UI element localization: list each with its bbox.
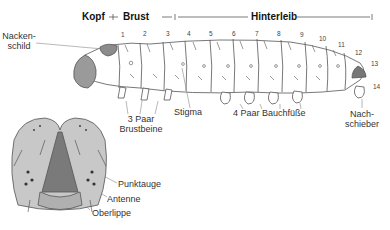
segment-number: 2 [143,30,147,37]
segment-number: 4 [187,30,191,37]
segment-number: 7 [255,30,259,37]
segment-number: 11 [338,41,345,48]
label-labrum: Oberlippe [92,208,131,218]
segment-number: 5 [209,30,213,37]
segment-number: 1 [121,31,125,38]
label-thoracic-legs: 3 Paar Brustbeine [114,114,168,134]
label-head: Kopf [82,11,105,22]
segment-number: 3 [166,30,170,37]
segment-number: 14 [373,83,380,90]
label-neck-shield: Nacken- schild [1,31,37,51]
label-prolegs: 4 Paar Bauchfüße [233,108,306,118]
segment-number: 9 [300,31,304,38]
label-spiracle: Stigma [174,107,202,117]
label-antenna: Antenne [107,194,141,204]
segment-number: 10 [319,35,326,42]
label-anal-prolegs: Nach- schieber [345,109,379,129]
head-front-view [12,118,107,212]
segment-number: 8 [277,30,281,37]
caterpillar-body [74,39,366,104]
label-thorax: Brust [123,11,149,22]
segment-number: 13 [371,60,378,67]
segment-number: 12 [355,49,362,56]
segment-number: 6 [232,30,236,37]
label-ocellus: Punktauge [118,179,161,189]
label-abdomen: Hinterleib [251,11,297,22]
